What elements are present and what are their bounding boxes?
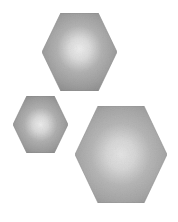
illustration-canvas bbox=[0, 0, 178, 222]
hexagons-illustration bbox=[0, 0, 178, 222]
